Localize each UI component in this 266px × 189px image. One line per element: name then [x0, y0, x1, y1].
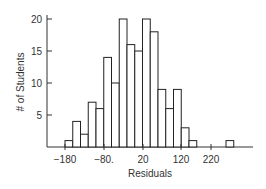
histogram-bar: [143, 19, 151, 147]
histogram-bar: [189, 141, 197, 147]
histogram-bar: [104, 57, 112, 147]
histogram-bar: [158, 89, 166, 147]
x-axis-title: Residuals: [128, 168, 172, 179]
histogram-bar-outlier: [226, 141, 234, 147]
x-tick-label: 20: [137, 154, 149, 165]
histogram-bar: [112, 83, 120, 147]
histogram-bar: [73, 121, 81, 147]
x-tick-label: 220: [203, 154, 220, 165]
histogram-bar: [135, 51, 143, 147]
y-tick-label: 15: [31, 46, 43, 57]
histogram-bar: [88, 102, 96, 147]
histogram-bar: [81, 134, 89, 147]
histogram-bar: [150, 32, 158, 147]
x-tick-label: −80.: [94, 154, 114, 165]
x-tick-label: −180: [54, 154, 77, 165]
x-tick-label: 120: [173, 154, 190, 165]
y-tick-label: 20: [31, 14, 43, 25]
histogram-bar: [119, 19, 127, 147]
histogram-bar: [166, 109, 174, 147]
histogram-bar: [96, 109, 104, 147]
histogram-svg: 5101520−180−80.20120220Residuals# of Stu…: [0, 0, 266, 189]
y-tick-label: 10: [31, 78, 43, 89]
histogram-bar: [127, 45, 135, 147]
y-tick-label: 5: [36, 110, 42, 121]
histogram-bar: [181, 128, 189, 147]
y-axis-title: # of Students: [15, 53, 26, 112]
histogram-bar: [174, 89, 182, 147]
residuals-histogram: 5101520−180−80.20120220Residuals# of Stu…: [0, 0, 266, 189]
histogram-bar: [65, 141, 73, 147]
